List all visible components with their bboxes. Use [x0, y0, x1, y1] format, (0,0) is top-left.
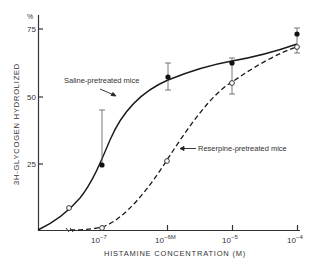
saline-point	[165, 74, 170, 79]
saline-curve	[38, 44, 297, 230]
axes	[38, 15, 300, 231]
y-tick-label-50: 50	[27, 93, 36, 102]
x-tick-label-exp: −6M	[164, 234, 176, 240]
x-tick-label-exp: −7	[100, 234, 108, 240]
saline-annotation: Saline-pretreated mice	[64, 76, 139, 85]
reserpine-arrow-icon	[180, 147, 196, 151]
chart-figure: % 75 50 25 3H-GLYCOGEN HYDROLIZED 10 −7 …	[0, 0, 323, 265]
y-unit-label: %	[27, 13, 33, 20]
y-axis-title: 3H-GLYCOGEN HYDROLIZED	[12, 63, 21, 185]
x-tick-label-exp: −4	[296, 234, 304, 240]
x-tick-label-exp: −5	[231, 234, 239, 240]
open-point	[67, 206, 72, 211]
x-tick-labels: 10 −7 10 −6M 10 −5 10 −4	[91, 234, 303, 245]
x-axis-title: HISTAMINE CONCENTRATION (M)	[104, 249, 246, 258]
reserpine-point	[165, 159, 170, 164]
saline-point	[294, 31, 299, 36]
y-tick-label-75: 75	[27, 25, 36, 34]
reserpine-annotation: Reserpine-pretreated mice	[198, 144, 287, 153]
saline-arrow-icon	[100, 89, 116, 96]
reserpine-point	[295, 45, 300, 50]
reserpine-point	[100, 226, 105, 231]
saline-point	[99, 162, 104, 167]
reserpine-markers	[67, 45, 300, 231]
reserpine-point	[230, 81, 235, 86]
saline-point	[229, 60, 234, 65]
y-tick-label-25: 25	[27, 160, 36, 169]
